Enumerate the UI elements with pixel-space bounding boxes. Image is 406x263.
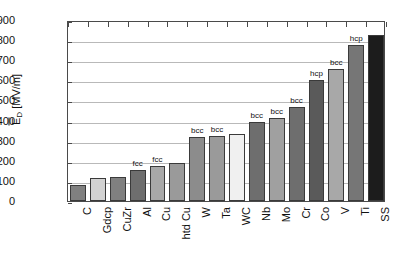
bar-slot: fcc bbox=[148, 20, 168, 201]
bar[interactable] bbox=[90, 178, 106, 201]
x-axis-tick-label: SS bbox=[380, 207, 391, 222]
bar[interactable] bbox=[130, 170, 146, 201]
bar-slot bbox=[108, 20, 128, 201]
bar[interactable] bbox=[249, 122, 265, 201]
bar-slot: fcc bbox=[128, 20, 148, 201]
bar[interactable] bbox=[289, 107, 305, 201]
top-axis-tick bbox=[386, 22, 387, 27]
y-axis-tick-label: 300 bbox=[0, 136, 15, 147]
bar[interactable] bbox=[328, 69, 344, 201]
bar-slot bbox=[88, 20, 108, 201]
bar[interactable] bbox=[269, 118, 285, 201]
x-axis-tick-label: W bbox=[201, 207, 212, 217]
x-axis-tick-label: Al bbox=[142, 207, 153, 217]
x-axis-tick-label: V bbox=[340, 207, 351, 214]
bar[interactable] bbox=[110, 177, 126, 201]
y-axis-tick-label: 800 bbox=[0, 35, 15, 46]
x-axis-tick-label: Cr bbox=[301, 207, 312, 219]
y-axis-tick-label: 600 bbox=[0, 75, 15, 86]
y-axis-tick bbox=[68, 203, 72, 204]
bar-slot: hcp bbox=[307, 20, 327, 201]
bar-slot bbox=[227, 20, 247, 201]
bar[interactable] bbox=[348, 45, 364, 201]
bar-chart: ED [MV/m] 0100200300400500600700800900 f… bbox=[0, 0, 406, 263]
bar[interactable] bbox=[169, 163, 185, 201]
bar-slot: hcp bbox=[346, 20, 366, 201]
bar-slot: bcc bbox=[267, 20, 287, 201]
y-axis-tick-label: 100 bbox=[0, 176, 15, 187]
x-axis-tick-label: Gdcp bbox=[102, 207, 113, 233]
bar-slot: bcc bbox=[207, 20, 227, 201]
x-axis-tick-label: WC bbox=[241, 207, 252, 225]
bar[interactable] bbox=[70, 185, 86, 201]
y-axis-tick-label: 400 bbox=[0, 116, 15, 127]
bar[interactable] bbox=[209, 136, 225, 201]
y-axis-tick-label: 900 bbox=[0, 15, 15, 26]
bar-slot: bcc bbox=[287, 20, 307, 201]
y-axis-tick-label: 500 bbox=[0, 95, 15, 106]
x-axis-tick-label: Mo bbox=[281, 207, 292, 222]
x-axis-tick-label: Cu bbox=[161, 207, 172, 221]
x-axis-tick-label: Ta bbox=[221, 207, 232, 219]
y-axis-tick-label: 0 bbox=[0, 196, 15, 207]
bar[interactable] bbox=[229, 134, 245, 201]
bar-slot bbox=[167, 20, 187, 201]
x-axis-tick-label: Co bbox=[320, 207, 331, 221]
bar[interactable] bbox=[189, 137, 205, 201]
x-axis-tick-label: C bbox=[82, 207, 93, 215]
x-axis-tick-label: htd Cu bbox=[181, 207, 192, 239]
bar-series: fccfccbccbccbccbccbcchcpbcchcp bbox=[68, 22, 384, 201]
bar[interactable] bbox=[150, 166, 166, 201]
x-axis-tick-label: Nb bbox=[261, 207, 272, 221]
x-axis-tick-label: CuZr bbox=[122, 207, 133, 231]
bar-slot: bcc bbox=[326, 20, 346, 201]
bar-slot bbox=[68, 20, 88, 201]
bar[interactable] bbox=[368, 35, 384, 201]
y-axis-tick-label: 200 bbox=[0, 156, 15, 167]
x-axis-tick-label: Ti bbox=[360, 207, 371, 216]
bar[interactable] bbox=[309, 80, 325, 201]
y-axis-tick-label: 700 bbox=[0, 55, 15, 66]
bar-slot bbox=[366, 20, 386, 201]
bar-slot: bcc bbox=[187, 20, 207, 201]
plot-area: fccfccbccbccbccbccbcchcpbcchcp bbox=[67, 21, 385, 202]
y-axis-title-subscript: D bbox=[15, 112, 24, 118]
